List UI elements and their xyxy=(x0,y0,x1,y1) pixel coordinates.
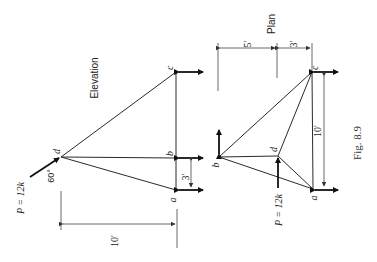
joint-a-label: a xyxy=(308,196,319,201)
joint-d-label: d xyxy=(268,146,279,152)
joint-c-label: c xyxy=(164,65,175,70)
member-ba xyxy=(219,157,313,189)
dim-ab-label: 3' xyxy=(180,173,191,180)
joint-d-label: d xyxy=(51,148,62,154)
member-bd xyxy=(219,156,278,157)
angle-label: 60° xyxy=(46,169,56,183)
member-da xyxy=(61,157,176,190)
member-cb xyxy=(219,72,312,157)
plan-title: Plan xyxy=(266,14,277,34)
plan-view: Plan 5' 3' 10' P = 12k b d c a xyxy=(210,14,338,227)
dim-ca-label: 10' xyxy=(312,125,323,137)
truss-figure: Elevation 3' P = 12k 60° d c b a 10' Pla… xyxy=(0,0,377,262)
figure-caption: Fig. 8.9 xyxy=(351,126,363,160)
elevation-view: Elevation 3' P = 12k 60° d c b a 10' xyxy=(15,57,203,248)
dim-right-label: 3' xyxy=(288,40,299,47)
member-cd xyxy=(278,72,312,156)
elevation-title: Elevation xyxy=(89,57,100,98)
dim-left-label: 5' xyxy=(242,40,253,47)
load-label: P = 12k xyxy=(15,181,26,215)
joint-a-label: a xyxy=(167,198,178,203)
member-db xyxy=(61,157,176,158)
member-da xyxy=(278,156,313,189)
joint-b-label: b xyxy=(164,151,175,156)
member-dc xyxy=(61,72,176,157)
load-label: P = 12k xyxy=(273,193,284,227)
joint-b-label: b xyxy=(210,163,221,168)
dim-span-label: 10' xyxy=(109,235,120,247)
joint-c-label: c xyxy=(309,65,320,70)
